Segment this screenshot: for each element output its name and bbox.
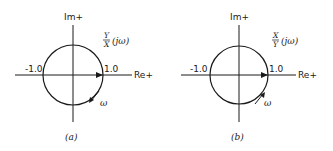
numerator: X: [272, 31, 279, 40]
arrowhead-icon: [96, 72, 103, 78]
numerator: Y: [104, 31, 110, 40]
argument: (jω): [112, 36, 130, 46]
pos-tick-label: 1.0: [104, 64, 119, 74]
imag-axis-label: Im+: [64, 12, 83, 22]
arrowhead-icon: [261, 72, 268, 78]
pos-tick-label: 1.0: [269, 64, 284, 74]
nyquist-diagram: Im+ Re+ -1.0 1.0 Y X (jω) ω (a) Im+ Re+ …: [0, 0, 333, 151]
real-axis-label: Re+: [298, 70, 317, 80]
panel-caption: (b): [231, 132, 244, 142]
imag-axis-label: Im+: [230, 12, 249, 22]
denominator: Y: [273, 40, 279, 49]
real-axis-label: Re+: [134, 70, 153, 80]
omega-label: ω: [264, 98, 272, 108]
neg-tick-label: -1.0: [25, 64, 43, 74]
transfer-function-label: Y X (jω): [103, 31, 130, 49]
panel-a: Im+ Re+ -1.0 1.0 Y X (jω) ω (a): [15, 12, 153, 142]
omega-label: ω: [100, 98, 108, 108]
denominator: X: [103, 40, 110, 49]
argument: (jω): [281, 36, 299, 46]
panel-b: Im+ Re+ -1.0 1.0 X Y (jω) ω (b): [181, 12, 317, 142]
neg-tick-label: -1.0: [190, 64, 208, 74]
transfer-function-label: X Y (jω): [272, 31, 299, 49]
panel-caption: (a): [65, 132, 78, 142]
